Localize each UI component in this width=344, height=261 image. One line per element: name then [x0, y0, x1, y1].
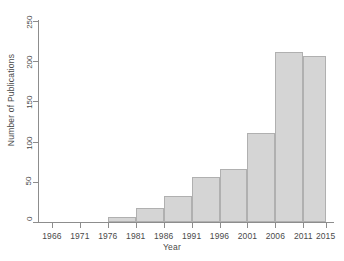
histogram-bar [136, 208, 164, 222]
y-tick-label: 150 [25, 96, 34, 109]
x-tick-label: 1996 [210, 231, 229, 241]
x-tick-label: 1971 [70, 231, 89, 241]
histogram-bar [275, 52, 303, 222]
x-tick-mark [247, 223, 248, 228]
x-axis-title: Year [0, 242, 344, 252]
y-tick-mark [33, 182, 38, 183]
x-tick-label: 1981 [126, 231, 145, 241]
x-tick-mark [220, 223, 221, 228]
x-tick-mark [192, 223, 193, 228]
y-tick-label: 200 [25, 56, 34, 69]
x-tick-label: 1976 [98, 231, 117, 241]
x-tick-mark [108, 223, 109, 228]
plot-area [39, 21, 334, 222]
y-tick-mark [33, 222, 38, 223]
histogram-bar [303, 56, 325, 222]
x-tick-mark [80, 223, 81, 228]
x-tick-mark [303, 223, 304, 228]
histogram-bar [192, 177, 220, 222]
histogram-bar [247, 133, 275, 222]
histogram-bar [220, 169, 248, 222]
x-tick-label: 2015 [316, 231, 335, 241]
histogram-bar [108, 217, 136, 222]
x-tick-mark [164, 223, 165, 228]
x-tick-mark [52, 223, 53, 228]
y-tick-label: 100 [25, 136, 34, 149]
x-tick-mark [275, 223, 276, 228]
x-axis-line [38, 222, 334, 223]
x-tick-label: 1966 [42, 231, 61, 241]
x-tick-label: 2001 [238, 231, 257, 241]
y-tick-label: 50 [25, 176, 34, 185]
y-axis-title: Number of Publications [6, 40, 16, 160]
x-tick-label: 2011 [294, 231, 313, 241]
y-tick-label: 250 [25, 16, 34, 29]
x-tick-label: 2006 [266, 231, 285, 241]
x-tick-mark [326, 223, 327, 228]
x-tick-label: 1986 [154, 231, 173, 241]
x-tick-mark [136, 223, 137, 228]
x-tick-label: 1991 [182, 231, 201, 241]
publications-histogram-figure: 050100150200250 196619711976198119861991… [0, 0, 344, 261]
histogram-bar [164, 196, 192, 222]
y-tick-label: 0 [25, 217, 34, 221]
